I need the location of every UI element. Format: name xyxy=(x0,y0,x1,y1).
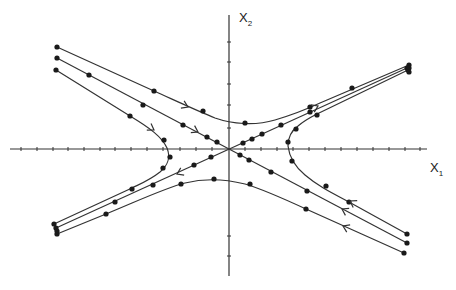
trajectory-point xyxy=(129,186,134,191)
trajectory-stable-manifold-lower-right xyxy=(229,149,410,246)
trajectory-point xyxy=(268,169,273,174)
trajectory-point xyxy=(293,126,298,131)
trajectory-point xyxy=(242,120,247,125)
trajectory-point xyxy=(53,67,58,72)
phase-portrait-diagram xyxy=(0,0,456,290)
trajectories xyxy=(51,44,411,255)
trajectory-point xyxy=(200,108,205,113)
trajectory-curve xyxy=(56,68,407,228)
trajectory-point xyxy=(406,69,411,74)
trajectory-point xyxy=(323,183,328,188)
trajectory-point xyxy=(191,162,196,167)
trajectory-point xyxy=(404,240,409,245)
trajectory-point xyxy=(86,72,91,77)
trajectory-point xyxy=(249,136,254,141)
trajectory-point xyxy=(285,139,290,144)
trajectory-point xyxy=(349,85,354,90)
trajectory-point xyxy=(289,158,294,163)
trajectory-point xyxy=(314,112,319,117)
trajectory-point xyxy=(54,55,59,60)
trajectory-point xyxy=(246,157,251,162)
trajectory-point xyxy=(304,188,309,193)
trajectory-point xyxy=(204,134,209,139)
x2-axis-label: X2 xyxy=(239,10,252,28)
trajectory-curve xyxy=(229,149,407,243)
trajectory-point xyxy=(150,182,155,187)
trajectory-point xyxy=(127,113,132,118)
trajectory-lower-hyperbola xyxy=(54,176,406,255)
trajectory-point xyxy=(303,206,308,211)
trajectory-point xyxy=(151,88,156,93)
trajectory-stable-manifold-upper-left xyxy=(54,55,229,149)
trajectory-point xyxy=(240,140,245,145)
trajectory-point xyxy=(112,199,117,204)
trajectory-point xyxy=(161,137,166,142)
trajectory-curve xyxy=(54,70,169,224)
trajectory-point xyxy=(247,181,252,186)
trajectory-point xyxy=(259,131,264,136)
x1-axis-label: X1 xyxy=(430,160,443,178)
trajectory-point xyxy=(237,152,242,157)
trajectory-point xyxy=(54,44,59,49)
trajectory-point xyxy=(211,176,216,181)
trajectory-point xyxy=(401,250,406,255)
trajectory-point xyxy=(167,154,172,159)
trajectory-point xyxy=(307,109,312,114)
trajectory-point xyxy=(278,122,283,127)
trajectory-point xyxy=(160,165,165,170)
trajectory-point xyxy=(178,181,183,186)
trajectory-point xyxy=(214,139,219,144)
trajectory-point xyxy=(103,211,108,216)
direction-arrow-icon xyxy=(181,101,190,111)
trajectory-point xyxy=(54,228,59,233)
trajectory-point xyxy=(404,231,409,236)
trajectory-point xyxy=(180,122,185,127)
trajectory-curve xyxy=(57,180,404,253)
trajectory-point xyxy=(208,154,213,159)
trajectory-point xyxy=(140,102,145,107)
